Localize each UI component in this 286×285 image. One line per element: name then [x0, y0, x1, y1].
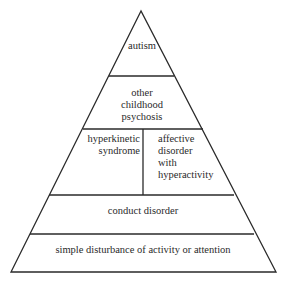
level-label-line: hyperactivity — [158, 169, 228, 181]
level-label-line: with — [158, 157, 228, 169]
level-label: conduct disorder — [108, 205, 178, 216]
level-simple-disturbance: simple disturbance of activity or attent… — [30, 244, 256, 256]
level-label-line: affective — [158, 133, 228, 145]
level-hyperkinetic-syndrome: hyperkinetic syndrome — [85, 133, 140, 157]
level-label: simple disturbance of activity or attent… — [55, 244, 230, 255]
level-label: autism — [128, 40, 156, 51]
level-conduct-disorder: conduct disorder — [60, 205, 226, 217]
level-label-line: hyperkinetic — [85, 133, 140, 145]
level-label-line: childhood — [90, 99, 194, 111]
level-autism: autism — [111, 40, 173, 52]
level-label-line: psychosis — [90, 111, 194, 123]
level-affective-disorder: affective disorder with hyperactivity — [158, 133, 228, 181]
level-label-line: other — [90, 87, 194, 99]
level-label-line: syndrome — [85, 145, 140, 157]
level-other-childhood-psychosis: other childhood psychosis — [90, 87, 194, 123]
level-label-line: disorder — [158, 145, 228, 157]
